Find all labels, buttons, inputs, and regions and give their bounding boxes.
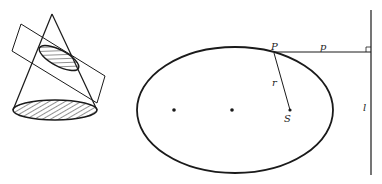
ellipse-curve [137,47,333,173]
label-S: S [284,113,291,124]
label-P: P [270,41,278,52]
cone-base [13,100,97,120]
cone-left-side [13,14,52,110]
ellipse-figure: P p r S l [137,10,371,175]
second-focus-point [230,108,234,112]
cone-figure [12,14,105,120]
right-angle-marker [366,47,371,52]
label-directrix: l [363,102,366,113]
label-r: r [272,77,278,88]
conic-sections-diagram: P p r S l [0,0,382,184]
label-p: p [320,41,327,52]
center-point [172,108,176,112]
